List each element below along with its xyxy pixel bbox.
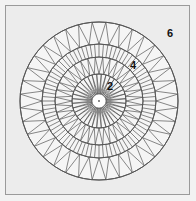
label-2: 2 (107, 81, 113, 92)
label-6: 6 (167, 28, 173, 39)
label-4: 4 (130, 60, 136, 71)
mesh-lines (20, 22, 178, 180)
